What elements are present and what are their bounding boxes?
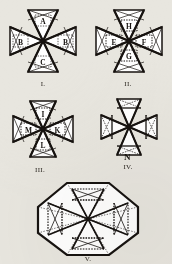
figure-3-label-left: M [25,126,32,135]
figure-2-label-bottom: G [126,52,132,61]
figure-1-caption: I. [23,80,63,88]
figure-1-label-left: B [18,38,23,47]
figure-1: A B B C [0,2,86,80]
figure-3-drawing: I M K L [0,93,86,165]
figure-4-drawing [86,93,172,161]
figure-3-caption: III. [20,166,60,174]
figure-4 [86,93,172,161]
figure-2-drawing: H E F G [86,2,172,80]
figure-2-label-left: E [111,38,116,47]
figure-2-label-top: H [126,22,132,31]
figure-5 [36,181,140,257]
figure-1-label-bottom: C [40,58,45,67]
figure-3: I M K L [0,93,86,165]
diagram-plate: A B B C I. [0,0,172,264]
figure-2-label-right: F [142,38,147,47]
figure-5-drawing [36,181,140,257]
figure-4-label-n: N [124,152,131,162]
figure-4-caption: IV. [108,163,148,171]
figure-2: H E F G [86,2,172,80]
figure-1-label-right: B [63,38,68,47]
figure-1-label-top: A [40,17,46,26]
figure-3-label-right: K [55,126,61,135]
figure-5-caption: V. [68,255,108,263]
figure-3-label-top: I [42,110,45,119]
figure-3-label-bottom: L [40,141,45,150]
figure-2-caption: II. [108,80,148,88]
figure-1-drawing: A B B C [0,2,86,80]
